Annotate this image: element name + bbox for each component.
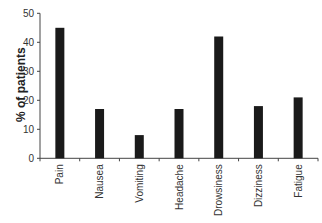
bar-headache	[175, 109, 184, 158]
y-axis-label: % of patients	[14, 47, 28, 122]
x-tick-label: Headache	[174, 164, 185, 210]
y-tick-label: 50	[23, 8, 35, 19]
y-tick-label: 0	[28, 153, 34, 164]
x-tick-label: Vomiting	[134, 164, 145, 202]
bar-nausea	[95, 109, 104, 158]
bar-pain	[55, 28, 64, 159]
y-tick-label: 10	[23, 124, 35, 135]
bar-dizziness	[254, 106, 263, 158]
bar-fatigue	[294, 97, 303, 158]
x-tick-label: Pain	[54, 164, 65, 184]
bar-vomiting	[135, 135, 144, 158]
x-tick-label: Nausea	[94, 164, 105, 199]
bar-drowsiness	[214, 37, 223, 159]
x-tick-label: Drowsiness	[213, 164, 224, 216]
x-tick-label: Dizziness	[253, 164, 264, 207]
x-tick-label: Fatigue	[293, 164, 304, 198]
bar-chart: 01020304050PainNauseaVomitingHeadacheDro…	[0, 0, 322, 223]
